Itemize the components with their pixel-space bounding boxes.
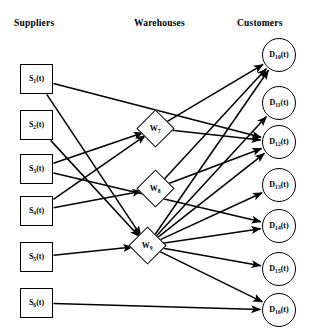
supplier-node-s5[interactable]: S5(t) bbox=[20, 242, 53, 272]
edge-s3-to-w7 bbox=[53, 133, 143, 163]
supplier-node-s6[interactable]: S6(t) bbox=[20, 288, 53, 318]
supplier-node-s1[interactable]: S1(t) bbox=[20, 64, 53, 94]
edge-s6-to-d16 bbox=[54, 303, 261, 309]
edge-s4-to-w7 bbox=[53, 135, 145, 199]
customer-node-d10[interactable]: D10(t) bbox=[262, 38, 296, 72]
node-label: S1(t) bbox=[29, 75, 44, 83]
node-label: S5(t) bbox=[29, 253, 44, 261]
column-title-suppliers: Suppliers bbox=[14, 18, 54, 28]
node-label: D11(t) bbox=[269, 99, 288, 107]
node-label: W7 bbox=[150, 124, 161, 132]
column-title-warehouses: Warehouses bbox=[134, 18, 185, 28]
edge-s4-to-w8 bbox=[53, 191, 141, 208]
column-title-customers: Customers bbox=[237, 18, 283, 28]
customer-node-d15[interactable]: D15(t) bbox=[262, 252, 296, 286]
node-label: D16(t) bbox=[269, 306, 288, 314]
node-label: D15(t) bbox=[269, 265, 288, 273]
node-label: S4(t) bbox=[29, 207, 44, 215]
customer-node-d12[interactable]: D12(t) bbox=[262, 125, 296, 159]
node-label: D12(t) bbox=[269, 138, 288, 146]
customer-node-d14[interactable]: D14(t) bbox=[262, 209, 296, 243]
node-label: W9 bbox=[142, 241, 153, 249]
node-label: D13(t) bbox=[269, 181, 288, 189]
customer-node-d16[interactable]: D16(t) bbox=[262, 293, 296, 327]
node-label: D10(t) bbox=[269, 51, 288, 59]
node-label: D14(t) bbox=[269, 222, 288, 230]
edge-w9-to-d15 bbox=[161, 248, 261, 266]
customer-node-d13[interactable]: D13(t) bbox=[262, 168, 296, 202]
supplier-node-s3[interactable]: S3(t) bbox=[20, 154, 53, 184]
edge-w9-to-d12 bbox=[156, 153, 264, 238]
node-label: S6(t) bbox=[29, 299, 44, 307]
edge-s5-to-w9 bbox=[54, 247, 133, 255]
node-label: S3(t) bbox=[29, 165, 44, 173]
edge-w9-to-d16 bbox=[158, 251, 262, 302]
customer-node-d11[interactable]: D11(t) bbox=[262, 86, 296, 120]
edge-s2-to-w9 bbox=[51, 140, 140, 236]
supplier-node-s4[interactable]: S4(t) bbox=[20, 196, 53, 226]
node-label: W8 bbox=[150, 184, 161, 192]
node-label: S2(t) bbox=[29, 121, 44, 129]
edge-s1-to-w9 bbox=[47, 94, 141, 235]
diagram-canvas: Suppliers Warehouses Customers S1(t)S2(t… bbox=[0, 0, 310, 336]
edge-w7-to-d10 bbox=[165, 64, 263, 122]
edge-w9-to-d14 bbox=[161, 229, 261, 244]
supplier-node-s2[interactable]: S2(t) bbox=[20, 110, 53, 140]
